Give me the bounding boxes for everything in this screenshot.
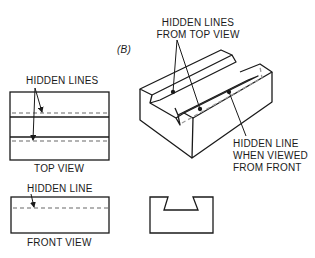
iso-front-line1: HIDDEN LINE xyxy=(233,138,308,150)
iso-hidden-lines-label: HIDDEN LINES FROM TOP VIEW xyxy=(153,17,243,41)
side-view-outline xyxy=(150,197,213,233)
iso-front-line3: FROM FRONT xyxy=(233,162,308,174)
front-view-outline xyxy=(11,197,109,233)
side-view xyxy=(150,197,213,233)
top-view-caption: TOP VIEW xyxy=(34,163,84,175)
top-view-outline xyxy=(10,92,109,160)
iso-hidden-lines-line1: HIDDEN LINES xyxy=(153,17,243,29)
top-view-hidden-lines-label: HIDDEN LINES xyxy=(26,75,98,87)
iso-hidden-line-front-label: HIDDEN LINE WHEN VIEWED FROM FRONT xyxy=(233,138,308,174)
panel-label: (B) xyxy=(117,44,131,56)
iso-hidden-lines-line2: FROM TOP VIEW xyxy=(153,29,243,41)
front-view-hidden-line-label: HIDDEN LINE xyxy=(27,183,93,195)
front-view xyxy=(11,194,109,233)
iso-hidden-line xyxy=(182,67,262,123)
top-view xyxy=(10,88,109,160)
front-view-leader xyxy=(31,194,34,207)
front-view-caption: FRONT VIEW xyxy=(27,237,92,249)
iso-front-line2: WHEN VIEWED xyxy=(233,150,308,162)
top-view-leader-2 xyxy=(33,88,35,140)
